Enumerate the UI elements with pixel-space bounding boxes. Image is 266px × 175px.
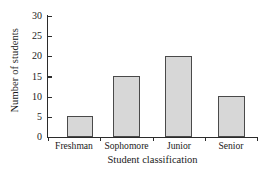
y-tick-label-10: 10: [20, 92, 42, 102]
x-axis-title: Student classification: [47, 155, 258, 166]
x-category-label-senior: Senior: [205, 141, 257, 152]
y-tick-label-20: 20: [20, 51, 42, 61]
y-tick-label-15: 15: [20, 72, 42, 82]
y-tick-mark: [48, 16, 52, 17]
y-tick-label-0: 0: [20, 132, 42, 142]
y-tick-mark: [48, 117, 52, 118]
bar-sophomore: [113, 76, 140, 137]
bar-freshman: [67, 116, 93, 136]
y-tick-mark: [48, 36, 52, 37]
y-tick-mark: [48, 76, 52, 77]
bar-senior: [218, 96, 245, 136]
x-category-label-junior: Junior: [153, 141, 205, 152]
y-tick-label-30: 30: [20, 11, 42, 21]
y-axis-title: Number of students: [10, 28, 21, 113]
y-tick-label-5: 5: [20, 112, 42, 122]
bar-chart-figure: Number of students 30 25 20 15 10 5 0 Fr…: [0, 0, 266, 175]
y-tick-mark: [48, 97, 52, 98]
y-tick-mark: [48, 56, 52, 57]
x-tick-mark: [257, 137, 258, 141]
bar-junior: [165, 56, 192, 137]
x-category-label-freshman: Freshman: [48, 141, 100, 152]
y-tick-label-25: 25: [20, 31, 42, 41]
x-category-label-sophomore: Sophomore: [98, 141, 155, 152]
